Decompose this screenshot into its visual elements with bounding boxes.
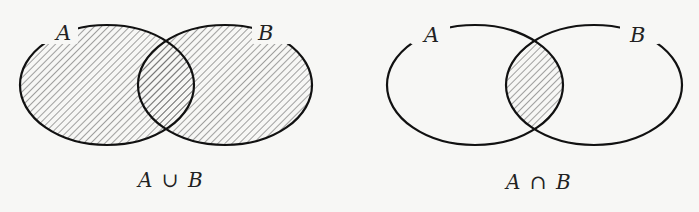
venn-intersection: A B A ∩ B	[387, 23, 682, 194]
intersection-operator: ∩	[530, 170, 547, 194]
set-a-label: A	[54, 21, 71, 45]
caption-set-a: A	[504, 170, 520, 194]
intersection-caption: A ∩ B	[504, 170, 571, 194]
caption-set-b: B	[555, 170, 571, 194]
venn-diagrams-figure: A B A ∪ B A B A ∩ B	[0, 0, 699, 212]
venn-union: A B A ∪ B	[20, 21, 312, 192]
set-b-label: B	[629, 23, 645, 47]
union-operator: ∪	[162, 168, 179, 192]
set-a-label: A	[422, 23, 439, 47]
union-caption: A ∪ B	[136, 168, 203, 192]
caption-set-a: A	[136, 168, 152, 192]
caption-set-b: B	[187, 168, 203, 192]
set-b-label: B	[257, 21, 273, 45]
